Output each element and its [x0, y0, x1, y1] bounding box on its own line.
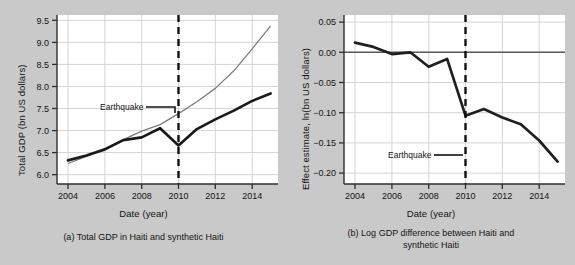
figure-container: Earthquake 9.5 9.0 8.5 8.0 7.5 7.0 6: [0, 0, 575, 265]
x-tick-label: 2008: [419, 191, 439, 201]
y-axis-title-b: Effect estimate, ln(bn US dollars): [300, 48, 311, 190]
x-tick-label: 2006: [382, 191, 402, 201]
plot-background-a: [57, 15, 278, 184]
x-tick-label: 2010: [168, 191, 188, 201]
y-axis-title-a: Total GDP (bn US dollars): [16, 64, 27, 176]
y-tick-labels-b: 0.05 0.00 −0.05 −0.10 −0.15 −0.20: [313, 17, 336, 178]
panel-a: Earthquake 9.5 9.0 8.5 8.0 7.5 7.0 6: [0, 0, 287, 265]
x-tick-labels-a: 2004 2006 2008 2010 2012 2014: [58, 191, 262, 201]
y-tick-label: 7.5: [36, 104, 49, 114]
panel-a-plot: Earthquake 9.5 9.0 8.5 8.0 7.5 7.0 6: [0, 0, 287, 212]
y-tick-label: 0.05: [318, 17, 336, 27]
y-tick-labels-a: 9.5 9.0 8.5 8.0 7.5 7.0 6.5 6.0: [36, 16, 49, 180]
panel-a-caption: (a) Total GDP in Haiti and synthetic Hai…: [0, 231, 287, 243]
earthquake-annotation-label-a: Earthquake: [100, 102, 144, 112]
y-tick-label: 6.0: [36, 170, 49, 180]
x-tick-label: 2004: [58, 191, 78, 201]
y-tick-label: −0.20: [313, 168, 336, 178]
y-tick-label: 9.5: [36, 16, 49, 26]
x-tick-label: 2014: [242, 191, 262, 201]
x-ticks-a: [68, 184, 252, 189]
y-tick-label: 0.00: [318, 48, 336, 58]
y-ticks-a: [52, 20, 57, 174]
x-tick-labels-b: 2004 2006 2008 2010 2012 2014: [345, 191, 549, 201]
earthquake-annotation-label-b: Earthquake: [388, 150, 432, 160]
panel-b-caption-line2: synthetic Haiti: [287, 239, 575, 251]
panel-b-plot: Earthquake 0.05 0.00 −0.05 −0.10 −0.15 −…: [287, 0, 575, 212]
y-tick-label: 8.5: [36, 60, 49, 70]
x-tick-label: 2014: [529, 191, 549, 201]
y-tick-label: 9.0: [36, 38, 49, 48]
y-tick-label: −0.15: [313, 138, 336, 148]
x-tick-label: 2012: [492, 191, 512, 201]
y-tick-label: 7.0: [36, 126, 49, 136]
y-tick-label: 8.0: [36, 82, 49, 92]
panel-b: Earthquake 0.05 0.00 −0.05 −0.10 −0.15 −…: [287, 0, 575, 265]
x-axis-title-b: Date (year): [287, 208, 575, 219]
x-ticks-b: [355, 184, 539, 189]
panel-b-caption-line1: (b) Log GDP difference between Haiti and: [287, 227, 575, 239]
y-tick-label: 6.5: [36, 148, 49, 158]
x-tick-label: 2004: [345, 191, 365, 201]
y-tick-label: −0.05: [313, 78, 336, 88]
x-tick-label: 2006: [95, 191, 115, 201]
plot-background-b: [344, 15, 565, 184]
x-tick-label: 2012: [205, 191, 225, 201]
y-tick-label: −0.10: [313, 108, 336, 118]
x-tick-label: 2010: [455, 191, 475, 201]
x-axis-title-a: Date (year): [0, 208, 287, 219]
y-ticks-b: [339, 22, 344, 173]
x-tick-label: 2008: [132, 191, 152, 201]
